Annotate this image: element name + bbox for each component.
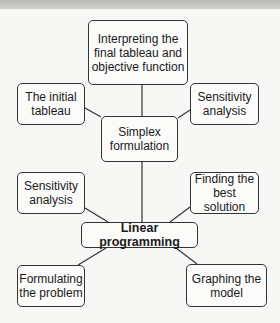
node-sensitivity-right: Sensitivity analysis xyxy=(190,83,259,125)
edge-formulating-linear xyxy=(78,248,106,265)
node-label: Sensitivity analysis xyxy=(20,179,82,207)
node-label: Sensitivity analysis xyxy=(193,90,256,118)
edge-sensleft-linear xyxy=(85,208,108,222)
node-label: The initial tableau xyxy=(20,90,82,118)
edge-finding-linear xyxy=(170,207,190,222)
edge-graphing-linear xyxy=(176,248,197,264)
node-label: Interpreting the final tableau and objec… xyxy=(91,32,185,74)
node-label: Graphing the model xyxy=(189,272,264,300)
node-label: Simplex formulation xyxy=(104,125,175,153)
node-label: Linear programming xyxy=(84,221,195,249)
edge-sensright-simplex xyxy=(178,110,190,118)
node-formulating-problem: Formulating the problem xyxy=(17,265,85,307)
node-sensitivity-left: Sensitivity analysis xyxy=(17,172,85,214)
node-graphing-model: Graphing the model xyxy=(186,264,267,307)
node-finding-best-solution: Finding the best solution xyxy=(190,172,259,214)
node-interpreting: Interpreting the final tableau and objec… xyxy=(88,20,188,85)
node-initial-tableau: The initial tableau xyxy=(17,83,85,125)
node-label: Finding the best solution xyxy=(193,172,256,214)
node-label: Formulating the problem xyxy=(19,272,82,300)
node-linear-programming: Linear programming xyxy=(81,222,198,248)
edge-initial-simplex xyxy=(85,108,101,117)
node-simplex-formulation: Simplex formulation xyxy=(101,116,178,162)
